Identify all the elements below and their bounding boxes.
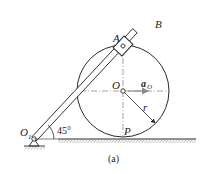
- ground-surface: [58, 139, 196, 143]
- radius-arrow: [123, 91, 155, 123]
- center-pin-O: [121, 89, 125, 93]
- label-O: O: [112, 79, 120, 91]
- label-r: r: [143, 101, 148, 113]
- label-aO-subscript: O: [147, 83, 152, 91]
- label-O1-subscript: 1: [28, 133, 32, 141]
- label-angle: 45°: [57, 125, 71, 136]
- label-aO: a: [141, 78, 146, 89]
- label-P: P: [123, 125, 131, 137]
- label-O1: O: [20, 126, 28, 138]
- label-A: A: [112, 32, 120, 44]
- mechanism-diagram: B A O a O r P O 1 45° (a): [0, 0, 210, 174]
- label-B: B: [155, 18, 162, 30]
- figure-caption: (a): [108, 153, 119, 165]
